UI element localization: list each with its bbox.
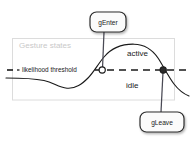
marker-gleave-crossing[interactable]	[160, 67, 166, 73]
threshold-label: likelihood threshold	[22, 66, 77, 73]
panel-title: Gesture states	[19, 41, 71, 50]
callout-gleave[interactable]: gLeave	[140, 112, 184, 132]
callout-genter[interactable]: gEnter	[90, 12, 126, 32]
figure-canvas: Gesture states likelihood threshold acti…	[0, 0, 195, 143]
marker-genter-crossing[interactable]	[99, 67, 105, 73]
state-label-active: active	[127, 49, 148, 58]
state-label-idle: idle	[126, 81, 139, 90]
callout-gleave-label: gLeave	[151, 119, 173, 127]
callout-genter-label: gEnter	[98, 19, 118, 27]
gesture-state-diagram: Gesture states likelihood threshold acti…	[0, 0, 195, 143]
